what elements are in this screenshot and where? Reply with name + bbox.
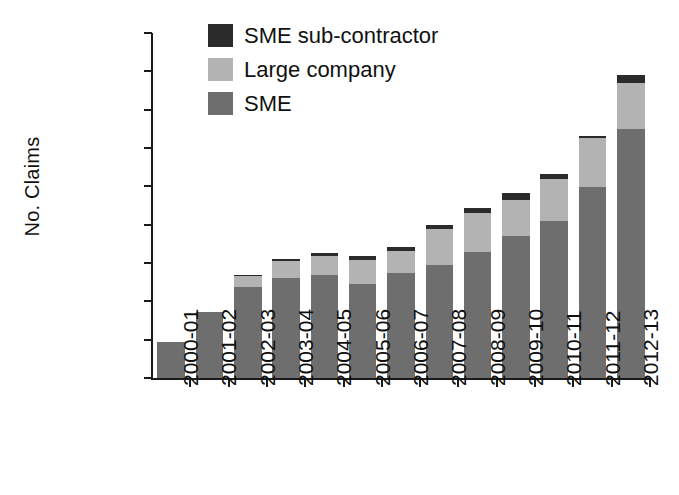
y-axis-tick bbox=[144, 109, 152, 111]
bar-segment-sme-sub-contractor bbox=[540, 174, 568, 179]
bar-segment-large-company bbox=[579, 138, 607, 187]
y-axis-tick bbox=[144, 147, 152, 149]
bar-segment-large-company bbox=[387, 251, 415, 273]
bar-segment-sme-sub-contractor bbox=[464, 208, 492, 213]
y-axis-tick bbox=[144, 300, 152, 302]
bar-segment-sme-sub-contractor bbox=[311, 253, 339, 256]
bar-segment-large-company bbox=[349, 260, 377, 284]
x-axis-label: 2000-01 bbox=[179, 309, 203, 386]
x-axis-label: 2001-02 bbox=[217, 309, 241, 386]
bar-segment-sme-sub-contractor bbox=[502, 193, 530, 200]
bar-segment-sme-sub-contractor bbox=[426, 225, 454, 229]
x-axis-label: 2010-11 bbox=[562, 310, 586, 386]
bar-segment-large-company bbox=[617, 83, 645, 129]
x-axis-label: 2008-09 bbox=[486, 309, 510, 386]
y-axis-tick bbox=[144, 377, 152, 379]
x-axis-label: 2009-10 bbox=[524, 309, 548, 386]
x-axis-label: 2006-07 bbox=[409, 309, 433, 386]
bar-segment-sme-sub-contractor bbox=[272, 259, 300, 261]
y-axis-tick bbox=[144, 185, 152, 187]
bar-segment-large-company bbox=[540, 179, 568, 221]
y-axis-tick bbox=[144, 70, 152, 72]
bar-segment-sme-sub-contractor bbox=[617, 75, 645, 83]
x-axis-label: 2004-05 bbox=[332, 309, 356, 386]
x-axis-label: 2012-13 bbox=[639, 309, 663, 386]
bar-segment-sme-sub-contractor bbox=[234, 275, 262, 277]
y-axis-tick bbox=[144, 32, 152, 34]
x-axis-label: 2003-04 bbox=[294, 309, 318, 386]
y-axis-tick bbox=[144, 339, 152, 341]
bar-segment-sme-sub-contractor bbox=[349, 256, 377, 260]
bar-segment-sme-sub-contractor bbox=[579, 136, 607, 139]
x-axis-label: 2002-03 bbox=[256, 309, 280, 386]
y-axis-title: No. Claims bbox=[21, 107, 44, 267]
bar-segment-sme-sub-contractor bbox=[387, 247, 415, 251]
bar-segment-large-company bbox=[426, 229, 454, 265]
bar-segment-large-company bbox=[502, 200, 530, 236]
y-axis-tick bbox=[144, 224, 152, 226]
stacked-bar-chart: No. Claims SME sub-contractor Large comp… bbox=[0, 0, 679, 495]
x-axis-label: 2011-12 bbox=[601, 310, 625, 386]
bar-segment-large-company bbox=[234, 276, 262, 287]
y-axis-tick bbox=[144, 262, 152, 264]
bar-segment-large-company bbox=[272, 261, 300, 278]
bar-segment-large-company bbox=[311, 256, 339, 275]
y-axis-line bbox=[151, 33, 153, 378]
bar-segment-large-company bbox=[464, 213, 492, 252]
x-axis-label: 2007-08 bbox=[447, 309, 471, 386]
x-axis-label: 2005-06 bbox=[371, 309, 395, 386]
